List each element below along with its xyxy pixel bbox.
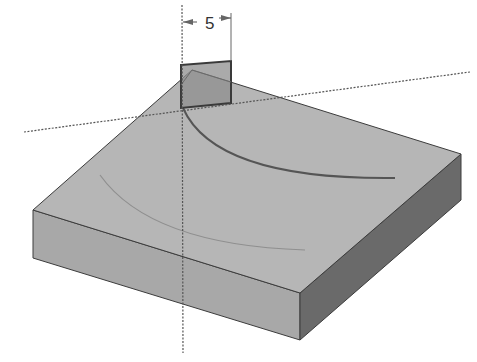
sketch-plane[interactable] (181, 61, 231, 108)
dimension-arrow-left-icon (183, 19, 197, 25)
cad-viewport[interactable]: 5 (0, 0, 477, 362)
dimension-arrow-right-icon (219, 15, 231, 21)
dimension-value[interactable]: 5 (205, 14, 214, 33)
